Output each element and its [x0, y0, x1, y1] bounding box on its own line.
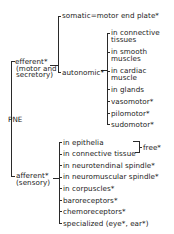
- autonomic-tick-2: [107, 52, 110, 53]
- afferent-tick-8: [59, 223, 62, 224]
- afferent-tick-3: [59, 165, 62, 166]
- pne-afferent-tick: [11, 176, 15, 177]
- afferent-tick-5: [59, 188, 62, 189]
- autonomic-tick-5: [107, 101, 110, 102]
- autonomic-tick-4: [107, 89, 110, 90]
- afferent-item-4: in neuromuscular spindle*: [63, 173, 159, 180]
- autonomic-bracket: [107, 33, 108, 125]
- pne-label: PNE: [8, 116, 22, 123]
- afferent-sub: (sensory): [16, 179, 50, 186]
- autonomic-tick-1: [107, 33, 110, 34]
- afferent-tick-7: [59, 211, 62, 212]
- afferent-tick-2: [59, 154, 62, 155]
- afferent-item-5: in corpuscles*: [63, 185, 114, 192]
- afferent-tick-4: [59, 177, 62, 178]
- afferent-tick-6: [59, 200, 62, 201]
- afferent-item-8: specialized (eye*, ear*): [63, 220, 149, 227]
- autonomic-item-4: in glands: [111, 86, 144, 93]
- autonomic-item-5: vasomotor*: [111, 98, 153, 105]
- afferent-item-3: in neurotendinal spindle*: [63, 162, 155, 169]
- somatic-label: somatic=motor end plate*: [62, 12, 159, 19]
- autonomic-tick-3: [107, 71, 110, 72]
- afferent-item-6: baroreceptors*: [63, 197, 118, 204]
- autonomic-label: autonomic*: [62, 69, 104, 76]
- efferent-sub2: secretory): [16, 71, 53, 78]
- free-label: free*: [143, 144, 161, 151]
- somatic-tick: [58, 16, 61, 17]
- afferent-tick-1: [59, 142, 62, 143]
- autonomic-item-6: pilomotor*: [111, 110, 150, 117]
- autonomic-tick: [58, 72, 61, 73]
- autonomic-tick-7: [107, 124, 110, 125]
- autonomic-item-7: sudomotor*: [111, 121, 154, 128]
- afferent-item-1: in epithelia: [63, 139, 104, 146]
- afferent-item-2: in connective tissue: [63, 150, 136, 157]
- free-connector: [139, 147, 142, 148]
- efferent-bracket: [58, 16, 59, 73]
- autonomic-item-1b: tissues: [111, 36, 136, 43]
- autonomic-tick-6: [107, 113, 110, 114]
- autonomic-item-3b: muscle: [111, 74, 137, 81]
- autonomic-item-2b: muscles: [111, 55, 141, 62]
- afferent-item-7: chemoreceptors*: [63, 208, 126, 215]
